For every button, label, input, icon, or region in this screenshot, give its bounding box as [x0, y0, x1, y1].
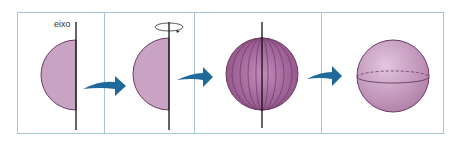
- panel-1-semicircle: [41, 22, 76, 130]
- panel-4-sphere: [357, 40, 429, 112]
- arrow-3-icon: [307, 66, 342, 86]
- arrow-2-icon: [177, 67, 213, 87]
- panel-2-rotating-semicircle: [133, 22, 183, 130]
- arrow-1-icon: [83, 76, 126, 96]
- panel-3-meridian-sphere: [226, 22, 298, 128]
- axis-label: eixo: [54, 19, 71, 29]
